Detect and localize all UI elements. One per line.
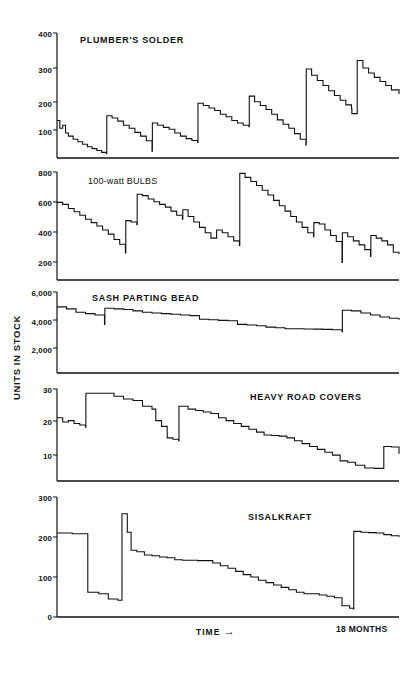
series-line-heavy-road-covers	[57, 393, 399, 468]
series-line-sisalkraft	[57, 514, 399, 609]
charts-svg	[0, 0, 420, 673]
series-line-plumber-s-solder	[57, 61, 399, 154]
inventory-charts-figure: UNITS IN STOCK 400 300 200 100 PLUMBER'S…	[0, 0, 420, 673]
series-line-sash-parting-bead	[57, 307, 399, 332]
series-line-100-watt-bulbs	[57, 173, 399, 262]
